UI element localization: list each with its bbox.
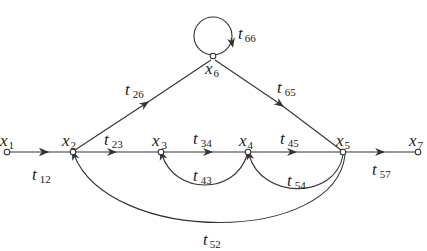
label-x1: x1 (0, 131, 14, 151)
label-x2: x2 (61, 131, 76, 151)
label-x4: x4 (238, 131, 254, 151)
label-t23: t23 (104, 130, 123, 150)
branch-t26 (75, 60, 211, 150)
label-x5: x5 (335, 131, 351, 151)
label-t52: t52 (203, 230, 221, 250)
label-t54: t54 (287, 171, 306, 191)
label-x3: x3 (151, 131, 168, 151)
label-t43: t43 (193, 166, 212, 186)
signal-flow-graph: x1 x2 x3 x4 x5 x6 x7 t12 t23 t34 t45 t57… (0, 0, 427, 251)
label-x7: x7 (408, 131, 424, 151)
branch-t66 (194, 17, 232, 55)
label-t12: t12 (32, 165, 51, 185)
label-t34: t34 (193, 129, 212, 149)
node-x6 (210, 53, 216, 59)
branch-t65 (215, 60, 341, 150)
label-t45: t45 (280, 129, 299, 149)
label-t66: t66 (238, 24, 256, 44)
label-t57: t57 (372, 160, 391, 180)
label-t65: t65 (277, 78, 296, 98)
label-t26: t26 (125, 80, 144, 100)
